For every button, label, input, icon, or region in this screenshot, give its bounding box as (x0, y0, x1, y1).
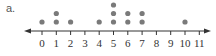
left-arrow-icon (24, 29, 31, 34)
right-arrow-icon (204, 29, 211, 34)
data-dot (111, 2, 116, 7)
tick-label: 0 (39, 37, 45, 49)
tick-label: 3 (82, 37, 88, 49)
tick-label: 6 (125, 37, 131, 49)
tick-label: 7 (139, 37, 145, 49)
data-dot (182, 19, 187, 24)
data-dot (54, 11, 59, 16)
dot-plot: 01234567891011 (0, 0, 216, 56)
tick-label: 8 (154, 37, 160, 49)
tick-label: 1 (54, 37, 60, 49)
data-dot (111, 11, 116, 16)
data-dot (111, 19, 116, 24)
data-dot (39, 19, 44, 24)
data-dot (125, 11, 130, 16)
tick-label: 5 (111, 37, 117, 49)
data-dot (54, 19, 59, 24)
tick-label: 10 (180, 37, 192, 49)
data-dot (97, 19, 102, 24)
data-dot (140, 19, 145, 24)
tick-label: 2 (68, 37, 74, 49)
tick-label: 4 (96, 37, 102, 49)
data-dot (140, 11, 145, 16)
tick-label: 9 (168, 37, 174, 49)
tick-label: 11 (194, 37, 205, 49)
data-dot (68, 19, 73, 24)
data-dot (125, 19, 130, 24)
